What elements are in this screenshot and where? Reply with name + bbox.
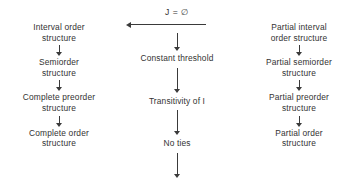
node-complete-preorder-structure: Complete preorder structure xyxy=(23,92,95,113)
node-line: structure xyxy=(275,138,323,149)
arrow-shaft xyxy=(177,110,178,132)
column-complete-structures: Interval order structure Semiorder struc… xyxy=(2,0,116,149)
node-semiorder-structure: Semiorder structure xyxy=(39,57,79,78)
arrow-head xyxy=(56,87,62,91)
node-line: Transitivity of I xyxy=(149,96,205,107)
arrow-shaft xyxy=(177,33,178,48)
arrow-head xyxy=(174,47,180,51)
arrow-transitivity-to-no-ties xyxy=(173,110,182,135)
node-line: Complete preorder xyxy=(23,92,95,103)
node-line: Interval order xyxy=(33,22,84,33)
node-interval-order-structure: Interval order structure xyxy=(33,22,84,43)
node-partial-preorder-structure: Partial preorder structure xyxy=(269,92,329,113)
node-line: Semiorder xyxy=(39,57,79,68)
node-line: No ties xyxy=(163,138,190,149)
node-line: order structure xyxy=(271,33,328,44)
node-line: Partial semiorder xyxy=(266,57,332,68)
arrow-head xyxy=(174,89,180,93)
column-partial-structures: Partial interval order structure Partial… xyxy=(240,0,358,149)
arrow-head xyxy=(174,174,180,178)
node-line: structure xyxy=(39,68,79,79)
node-line: Constant threshold xyxy=(141,53,214,64)
arrow-partial-preorder-to-partial-order xyxy=(295,116,304,127)
arrow-partial-semiorder-to-partial-preorder xyxy=(295,80,304,91)
node-constant-threshold: Constant threshold xyxy=(141,53,214,64)
arrow-no-ties-terminal xyxy=(173,153,182,178)
node-line: structure xyxy=(29,138,89,149)
arrow-partial-interval-to-partial-semiorder xyxy=(295,45,304,56)
arrow-shaft xyxy=(177,153,178,175)
node-partial-interval-order-structure: Partial interval order structure xyxy=(271,22,328,43)
arrow-constant-threshold-to-transitivity xyxy=(173,68,182,93)
node-line: Complete order xyxy=(29,128,89,139)
node-line: structure xyxy=(269,103,329,114)
arrow-complete-preorder-to-complete-order xyxy=(55,116,64,127)
node-line: Partial preorder xyxy=(269,92,329,103)
node-line: structure xyxy=(266,68,332,79)
node-line: structure xyxy=(33,33,84,44)
node-line: Partial interval xyxy=(271,22,328,33)
node-transitivity-of-i: Transitivity of I xyxy=(149,96,205,107)
arrow-head xyxy=(296,87,302,91)
arrow-head xyxy=(296,52,302,56)
arrow-top-to-constant-threshold xyxy=(173,33,182,51)
arrow-head xyxy=(56,123,62,127)
order-structure-diagram: Interval order structure Semiorder struc… xyxy=(0,0,360,178)
node-partial-order-structure: Partial order structure xyxy=(275,128,323,149)
node-line: structure xyxy=(23,103,95,114)
arrow-semiorder-to-complete-preorder xyxy=(55,80,64,91)
column-conditions: Constant threshold Transitivity of I No … xyxy=(120,0,234,178)
arrow-head xyxy=(174,131,180,135)
node-line: Partial order xyxy=(275,128,323,139)
arrow-interval-to-semiorder xyxy=(55,45,64,56)
node-complete-order-structure: Complete order structure xyxy=(29,128,89,149)
arrow-head xyxy=(296,123,302,127)
node-partial-semiorder-structure: Partial semiorder structure xyxy=(266,57,332,78)
arrow-head xyxy=(56,52,62,56)
node-no-ties: No ties xyxy=(163,138,190,149)
arrow-shaft xyxy=(177,68,178,90)
